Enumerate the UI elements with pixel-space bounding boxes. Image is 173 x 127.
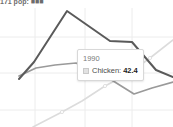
tooltip-series-label: Chicken: <box>92 66 121 75</box>
tooltip-series-row: Chicken: 42.4 <box>83 66 138 75</box>
series-color-swatch-icon <box>83 68 89 74</box>
data-point-marker <box>103 84 106 87</box>
tooltip-title: 1990 <box>83 54 138 63</box>
chart-tooltip: 1990 Chicken: 42.4 <box>77 49 144 81</box>
data-point-marker <box>148 56 151 59</box>
tooltip-series-value: 42.4 <box>123 66 138 75</box>
chart-screenshot: 171 pop: ■■■ 1990 Chicken: <box>0 0 173 127</box>
data-point-marker <box>60 110 63 113</box>
